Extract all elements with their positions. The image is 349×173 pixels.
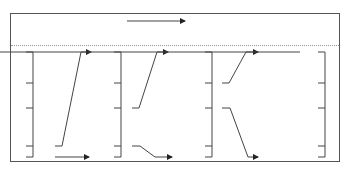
diagram-lines — [0, 0, 349, 173]
